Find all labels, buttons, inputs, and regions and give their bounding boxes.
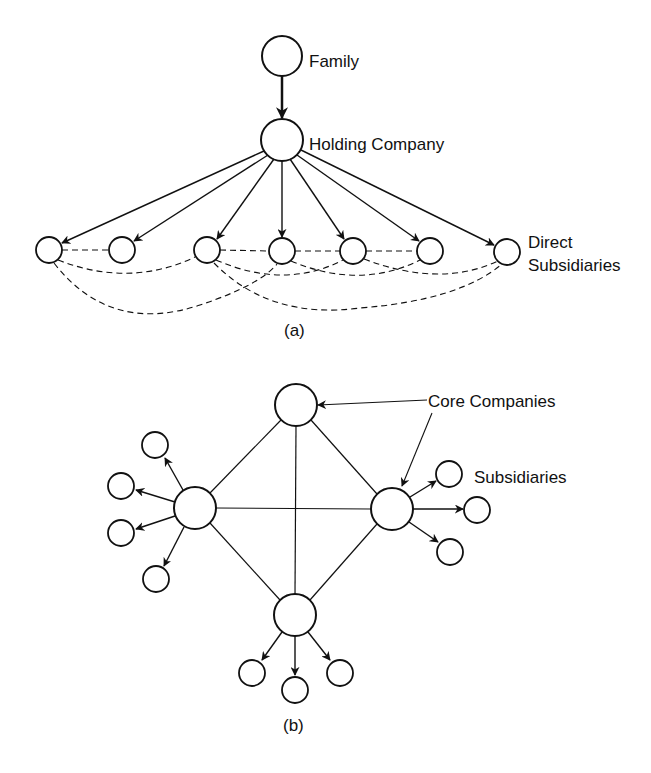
diagram-b <box>108 384 490 703</box>
diagram-a <box>36 36 520 314</box>
diagram-canvas: Family Holding Company Direct Subsidiari… <box>0 0 651 773</box>
holding-company-node <box>261 119 303 161</box>
core-companies-label: Core Companies <box>428 392 556 411</box>
holding-company-label: Holding Company <box>309 135 445 154</box>
core-node-top <box>275 384 317 426</box>
diagram-b-labels: Core Companies Subsidiaries (b) <box>283 392 567 735</box>
core-company-nodes <box>174 384 413 636</box>
family-node <box>262 36 302 76</box>
caption-b: (b) <box>283 716 304 735</box>
core-node-bottom <box>274 594 316 636</box>
subsidiary-nodes <box>108 432 490 703</box>
family-label: Family <box>309 52 360 71</box>
core-links <box>210 420 377 600</box>
caption-a: (a) <box>284 321 305 340</box>
subsidiaries-label: Subsidiaries <box>474 468 567 487</box>
core-pointer-arrows <box>318 400 432 486</box>
core-node-right <box>371 488 413 530</box>
core-node-left <box>174 487 216 529</box>
direct-subsidiary-nodes <box>36 237 520 265</box>
direct-subsidiaries-label-line2: Subsidiaries <box>528 256 621 275</box>
direct-subsidiaries-label-line1: Direct <box>528 233 573 252</box>
diagram-a-labels: Family Holding Company Direct Subsidiari… <box>284 52 621 340</box>
holding-to-subsidiary-arrows <box>62 150 494 245</box>
